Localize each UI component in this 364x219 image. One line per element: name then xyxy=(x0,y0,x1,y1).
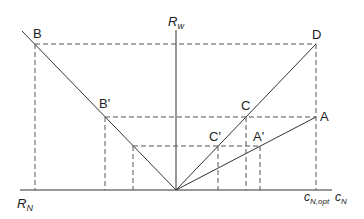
axis-label-cn-opt: cN,opt xyxy=(304,190,330,206)
label-c: C xyxy=(241,98,250,113)
axis-label-cn: cN xyxy=(335,190,347,206)
axis-label-rw: Rw xyxy=(168,14,184,31)
label-b-prime: B' xyxy=(99,96,110,111)
label-a: A xyxy=(320,109,329,124)
label-b: B xyxy=(33,26,42,41)
label-d: D xyxy=(312,27,321,42)
label-a-prime: A' xyxy=(253,129,264,144)
diagram-canvas: B D B' C A C' A' Rw RN cN,opt cN xyxy=(0,0,364,219)
axis-label-rn: RN xyxy=(17,196,33,213)
label-c-prime: C' xyxy=(209,129,221,144)
